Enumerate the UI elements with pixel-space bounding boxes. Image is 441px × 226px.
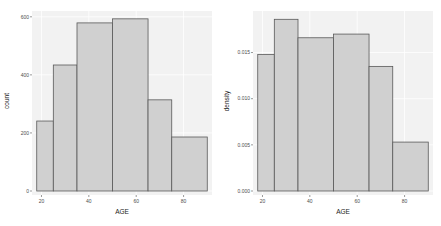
density-histogram-svg: 0.0000.0050.0100.01520406080AGEdensity [220, 0, 441, 226]
x-tick-label: 60 [354, 198, 360, 204]
histogram-bar [113, 19, 149, 191]
x-tick-label: 20 [39, 198, 45, 204]
y-axis-title: count [3, 93, 10, 109]
y-tick-label: 0.015 [237, 49, 250, 55]
y-tick-label: 0.000 [237, 188, 250, 194]
histogram-bar [369, 66, 393, 191]
histogram-bar [148, 100, 172, 191]
y-tick-label: 0 [26, 188, 29, 194]
histogram-bar [298, 38, 334, 191]
x-tick-label: 20 [260, 198, 266, 204]
histogram-bar [53, 65, 77, 191]
count-histogram-chart: 020040060020406080AGEcount [0, 0, 220, 226]
y-tick-label: 600 [21, 14, 30, 20]
y-tick-label: 400 [21, 72, 30, 78]
x-tick-label: 80 [181, 198, 187, 204]
y-axis-title: density [223, 90, 231, 111]
histogram-bar [172, 137, 208, 191]
y-tick-label: 0.005 [237, 142, 250, 148]
density-histogram-chart: 0.0000.0050.0100.01520406080AGEdensity [220, 0, 440, 226]
y-tick-label: 0.010 [237, 95, 250, 101]
x-tick-label: 40 [86, 198, 92, 204]
histogram-bar [37, 121, 54, 191]
histogram-bar [258, 54, 275, 191]
y-tick-label: 200 [21, 130, 30, 136]
x-axis-title: AGE [336, 208, 350, 215]
histogram-bar [334, 34, 370, 191]
x-axis-title: AGE [115, 208, 129, 215]
x-tick-label: 60 [133, 198, 139, 204]
histogram-bar [393, 142, 429, 191]
count-histogram-svg: 020040060020406080AGEcount [0, 0, 220, 226]
histogram-bar [274, 19, 298, 191]
x-tick-label: 80 [402, 198, 408, 204]
histogram-bar [77, 23, 113, 191]
x-tick-label: 40 [307, 198, 313, 204]
